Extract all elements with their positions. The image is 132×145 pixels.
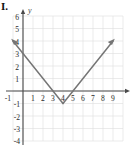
- right-arrow-icon: [108, 39, 115, 45]
- x-axis-arrow-icon: [125, 89, 130, 93]
- x-tick-label: 6: [81, 94, 85, 103]
- y-tick-label: 1: [15, 75, 19, 84]
- x-tick-label: 8: [101, 94, 105, 103]
- y-tick-label: -3: [14, 125, 21, 134]
- x-tick-label: 9: [111, 94, 115, 103]
- x-tick-label: 2: [41, 94, 45, 103]
- plot-svg: y -1 1 2 3 4 5 6 7 8 9 6 5 4 3 2 1: [0, 0, 132, 145]
- series-right-branch: [63, 41, 113, 104]
- x-tick-labels: -1 1 2 3 4 5 6 7 8 9: [5, 94, 115, 103]
- x-tick-label: -1: [5, 94, 12, 103]
- x-axis: [6, 89, 130, 93]
- y-tick-label: -2: [14, 113, 21, 122]
- x-tick-label: 5: [71, 94, 75, 103]
- y-tick-label: 2: [15, 63, 19, 72]
- y-tick-label: 5: [15, 25, 19, 34]
- y-tick-label: 3: [15, 50, 19, 59]
- y-axis-label: y: [27, 6, 32, 15]
- x-tick-label: 1: [31, 94, 35, 103]
- y-axis-arrow-icon: [21, 9, 25, 14]
- y-tick-label: 6: [15, 13, 19, 22]
- coordinate-plot: y -1 1 2 3 4 5 6 7 8 9 6 5 4 3 2 1: [0, 0, 132, 145]
- grid-lines: [13, 16, 123, 141]
- series-left-branch: [13, 41, 63, 104]
- y-tick-label: -4: [14, 137, 21, 145]
- y-axis: [21, 9, 25, 145]
- figure-panel: I.: [0, 0, 132, 145]
- x-tick-label: 7: [91, 94, 95, 103]
- y-tick-label: -1: [14, 100, 21, 109]
- x-tick-label: 3: [51, 94, 55, 103]
